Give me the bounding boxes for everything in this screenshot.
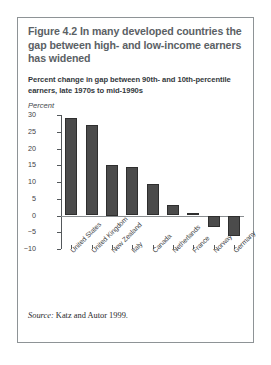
- y-tick-mark: [57, 115, 61, 116]
- bar: [187, 213, 199, 216]
- source-citation: Katz and Autor 1999.: [54, 311, 128, 320]
- y-axis-line: [61, 115, 62, 249]
- source-label: Source:: [28, 311, 54, 320]
- bar: [86, 125, 98, 215]
- y-tick-label: 15: [28, 160, 36, 169]
- source-note: Source: Katz and Autor 1999.: [28, 311, 128, 320]
- y-tick-mark: [57, 232, 61, 233]
- y-tick-label: 30: [28, 110, 36, 119]
- y-tick-mark: [57, 149, 61, 150]
- y-tick-label: −5: [28, 227, 36, 236]
- bar-chart-plot: 302520151050−5−10: [38, 115, 244, 249]
- bar: [208, 216, 220, 228]
- figure-subtitle: Percent change in gap between 90th- and …: [28, 75, 246, 96]
- y-tick-mark: [57, 182, 61, 183]
- bar: [147, 184, 159, 216]
- bar: [228, 216, 240, 236]
- y-tick-mark: [57, 216, 61, 217]
- y-tick-label: 5: [32, 194, 36, 203]
- y-tick-mark: [57, 132, 61, 133]
- y-tick-label: 0: [32, 211, 36, 220]
- y-tick-label: 25: [28, 127, 36, 136]
- bar: [126, 167, 138, 216]
- figure-title: Figure 4.2 In many developed countries t…: [28, 25, 246, 66]
- y-tick-label: 10: [28, 177, 36, 186]
- bar: [65, 118, 77, 215]
- bar: [167, 205, 179, 215]
- y-tick-label: 20: [28, 144, 36, 153]
- bar: [106, 165, 118, 215]
- y-tick-label: −10: [24, 244, 36, 253]
- y-tick-mark: [57, 199, 61, 200]
- figure-panel: Figure 4.2 In many developed countries t…: [17, 17, 254, 343]
- y-tick-mark: [57, 165, 61, 166]
- x-axis-labels: United StatesUnited KingdomNew ZealandIt…: [38, 249, 244, 309]
- y-axis-title: Percent: [28, 101, 54, 110]
